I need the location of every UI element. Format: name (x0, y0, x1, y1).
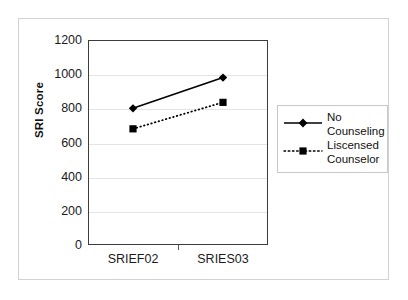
legend-label-line2: Counselor (327, 153, 389, 167)
y-axis-tick-label: 400 (38, 170, 82, 183)
chart-figure: SRI Score 020040060080010001200 SRIEF02S… (0, 0, 408, 300)
y-axis-tick-label: 800 (38, 102, 82, 115)
legend-label-line2: Counseling (327, 125, 389, 139)
gridline (89, 75, 267, 76)
y-axis-tick-label: 1200 (38, 34, 82, 47)
y-axis-tick-labels: 020040060080010001200 (34, 40, 82, 245)
x-axis-tick-label: SRIES03 (178, 252, 268, 266)
y-axis-tick-label: 600 (38, 136, 82, 149)
legend-label-line1: Liscensed (327, 139, 389, 153)
gridline (89, 212, 267, 213)
legend-label-licensed-counselor: Liscensed Counselor (327, 139, 389, 166)
y-axis-tick-label: 0 (38, 239, 82, 252)
gridline (89, 144, 267, 145)
gridline (89, 178, 267, 179)
gridline (89, 109, 267, 110)
legend-label-line1: No (327, 111, 389, 125)
legend-label-no-counseling: No Counseling (327, 111, 389, 138)
y-axis-tick-label: 200 (38, 205, 82, 218)
legend-marker-diamond-icon (283, 117, 323, 129)
x-axis-tick-label: SRIEF02 (88, 252, 178, 266)
y-axis-tick-label: 1000 (38, 68, 82, 81)
x-axis-tick-mark (178, 245, 179, 250)
plot-area (88, 40, 268, 245)
chart-legend: No Counseling Liscensed Counselor (277, 105, 388, 173)
legend-marker-square-icon (283, 145, 323, 157)
